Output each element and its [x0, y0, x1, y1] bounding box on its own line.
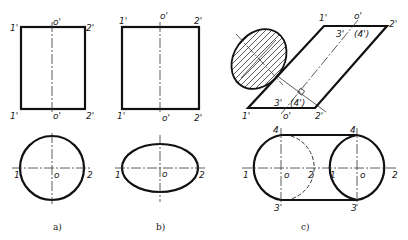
label-2prime-top-b: 2'	[194, 16, 202, 26]
label-2prime-bottom-c: 2'	[315, 111, 323, 121]
top-view-stadium	[254, 135, 385, 200]
right-circle-left-arc	[330, 135, 357, 200]
label-2-right: 2	[392, 170, 398, 180]
label-2-left: 2	[308, 170, 314, 180]
label-1-b: 1	[115, 170, 121, 180]
label-1prime-bottom-a: 1'	[10, 111, 18, 121]
label-3-left: 3	[274, 203, 280, 213]
label-1prime-top-b: 1'	[119, 16, 127, 26]
label-4prime-top-c: (4')	[354, 29, 369, 39]
figure-c: 1' o' 2' 3' (4') 3' (4') 1' o' 2' 4 1 o …	[200, 0, 398, 232]
label-1-left: 1	[243, 170, 249, 180]
label-oprime-bottom-b: o'	[162, 113, 170, 123]
caption-b: b)	[156, 222, 165, 232]
projection-diagram: 1' o' 2' 1' o' 2' 1 o 2 a) 1' o' 2' 1' o…	[0, 0, 408, 240]
label-oprime-top-b: o'	[160, 11, 168, 21]
label-4-right: 4	[350, 125, 356, 135]
label-1-a: 1	[14, 170, 20, 180]
label-1prime-top-a: 1'	[10, 23, 18, 33]
label-o-a: o	[54, 170, 60, 180]
label-2prime-top-c: 2'	[389, 19, 397, 29]
section-axis-perp	[241, 40, 276, 78]
label-2-b: 2	[199, 170, 205, 180]
label-oprime-top-c: o'	[354, 11, 362, 21]
label-2prime-top-a: 2'	[86, 23, 94, 33]
label-3prime-top-c: 3'	[336, 29, 344, 39]
label-oprime-bottom-c: o'	[283, 111, 291, 121]
front-view-rectangle-a	[21, 27, 85, 109]
label-2prime-bottom-b: 2'	[194, 113, 202, 123]
figure-a: 1' o' 2' 1' o' 2' 1 o 2 a)	[10, 17, 94, 232]
label-3prime-bottom-c: 3'	[274, 98, 282, 108]
label-2prime-bottom-a: 2'	[86, 111, 94, 121]
label-oprime-top-a: o'	[53, 17, 61, 27]
caption-a: a)	[53, 222, 62, 232]
label-1-right: 1	[330, 170, 336, 180]
label-1prime-bottom-b: 1'	[117, 111, 125, 121]
hidden-arc	[291, 136, 314, 199]
label-3-right: 3	[351, 203, 357, 213]
label-2-a: 2	[87, 170, 93, 180]
caption-c: c)	[301, 222, 310, 232]
label-o-left: o	[284, 170, 290, 180]
label-4prime-bottom-c: (4')	[290, 98, 305, 108]
label-o-right: o	[360, 170, 366, 180]
label-oprime-bottom-a: o'	[53, 111, 61, 121]
figure-b: 1' o' 2' 1' o' 2' 1 o 2 b)	[115, 11, 206, 232]
label-o-b: o	[162, 169, 168, 179]
label-1prime-bottom-c: 1'	[242, 111, 250, 121]
label-4-left: 4	[273, 125, 279, 135]
label-1prime-top-c: 1'	[319, 13, 327, 23]
front-view-rectangle-b	[122, 27, 199, 109]
